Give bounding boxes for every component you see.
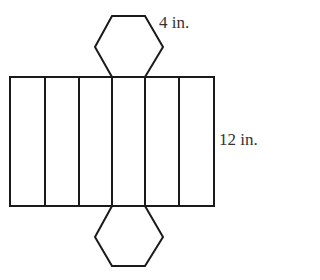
height-label: 12 in. (219, 130, 258, 150)
hex-side-label: 4 in. (159, 13, 189, 33)
face-dividers (45, 77, 179, 206)
bottom-hexagon-face (95, 206, 163, 266)
top-hexagon-face (95, 16, 163, 77)
